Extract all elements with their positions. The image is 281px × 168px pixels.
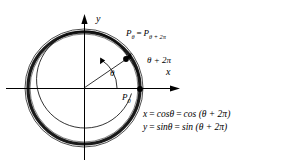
y-axis-label: y bbox=[96, 14, 100, 24]
p-equality-lhs-sub: θ bbox=[132, 33, 135, 40]
x-equation-equals-2: = bbox=[176, 109, 181, 119]
point-p-zero-dot bbox=[137, 86, 143, 92]
x-axis-arrowhead bbox=[170, 85, 180, 91]
p-theta-equality-label: Pθ=Pθ + 2π bbox=[126, 29, 166, 40]
p-zero-label: P0 bbox=[122, 93, 131, 104]
p-zero-sub: 0 bbox=[128, 97, 131, 104]
y-equation-label: y=sinθ=sin (θ + 2π) bbox=[143, 123, 227, 133]
point-p-theta-dot bbox=[123, 56, 129, 62]
x-equation-equals-1: = bbox=[149, 109, 154, 119]
x-equation-label: x=cosθ=cos (θ + 2π) bbox=[143, 110, 230, 120]
radius-segment bbox=[84, 60, 125, 88]
y-axis-arrowhead bbox=[81, 14, 87, 24]
x-equation-rhs: cos (θ + 2π) bbox=[184, 109, 231, 119]
theta-plus-2pi-label: θ + 2π bbox=[147, 56, 171, 65]
y-equation-rhs: sin (θ + 2π) bbox=[182, 122, 227, 132]
unit-circle-figure: y x Pθ=Pθ + 2π θ + 2π θ P0 x=cosθ=cos (θ… bbox=[0, 0, 281, 168]
x-equation-middle: cosθ bbox=[157, 109, 174, 119]
x-equation-lhs: x bbox=[143, 109, 147, 119]
y-equation-lhs: y bbox=[143, 122, 147, 132]
y-equation-equals-2: = bbox=[175, 122, 180, 132]
y-equation-equals-1: = bbox=[149, 122, 154, 132]
p-equality-rhs-sub: θ + 2π bbox=[149, 33, 166, 40]
p-equality-equals: = bbox=[137, 28, 142, 38]
y-equation-middle: sinθ bbox=[157, 122, 173, 132]
theta-arc-arrowhead bbox=[100, 58, 105, 65]
x-axis-label: x bbox=[166, 67, 170, 77]
theta-label: θ bbox=[110, 69, 114, 78]
figure-canvas bbox=[0, 0, 281, 168]
